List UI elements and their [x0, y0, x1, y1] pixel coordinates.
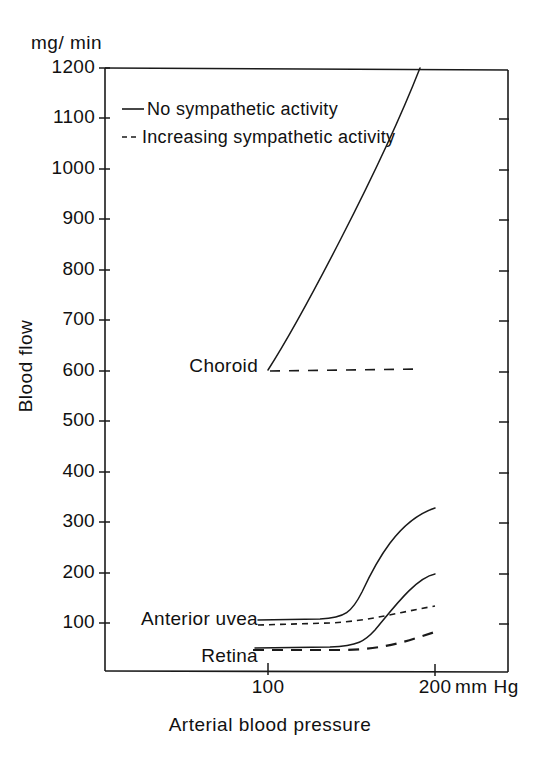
curve-choroid-dashed [270, 369, 420, 371]
legend-swatches [122, 109, 144, 137]
curve-anterior-uvea-solid [258, 508, 435, 620]
plot-frame [105, 68, 508, 672]
blood-flow-autoregulation-figure: mg/ min Blood flow Arterial blood pressu… [0, 0, 550, 760]
curve-anterior-uvea-dashed [258, 606, 435, 625]
curve-choroid-solid [268, 68, 420, 370]
axis-bottom [105, 671, 508, 672]
curve-retina-solid [255, 574, 435, 648]
x-axis-ticks [268, 663, 435, 676]
axis-top [105, 68, 508, 70]
chart-plot-area [0, 0, 550, 760]
